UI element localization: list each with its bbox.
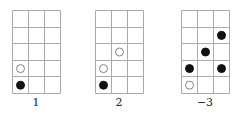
black-stone-icon (17, 81, 25, 89)
grid-board (95, 10, 143, 93)
white-stone-icon (100, 65, 108, 73)
black-stone-icon (218, 65, 226, 73)
white-stone-icon (116, 48, 124, 56)
panel-2: 2 (95, 10, 143, 93)
panel-3: −3 (181, 10, 229, 93)
white-stone-icon (186, 81, 194, 89)
black-stone-icon (186, 65, 194, 73)
panel-label: −3 (181, 96, 229, 109)
panel-1: 1 (12, 10, 60, 93)
panel-label: 2 (95, 96, 143, 109)
grid-board (12, 10, 60, 93)
black-stone-icon (100, 81, 108, 89)
black-stone-icon (218, 31, 226, 39)
white-stone-icon (17, 65, 25, 73)
panel-label: 1 (12, 96, 60, 109)
black-stone-icon (202, 48, 210, 56)
grid-board (181, 10, 229, 93)
